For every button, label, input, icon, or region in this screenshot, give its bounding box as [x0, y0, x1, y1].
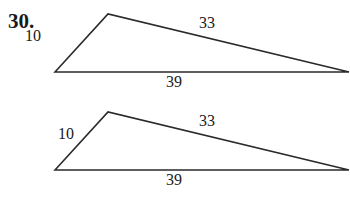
- triangle-1-left-side-label: 10: [25, 28, 41, 44]
- triangle-2-bottom-side-label: 39: [166, 172, 182, 188]
- triangle-2-left-side-label: 10: [58, 126, 74, 142]
- triangle-1-top-side-label: 33: [199, 15, 215, 31]
- triangle-2-top-side-label: 33: [199, 113, 215, 129]
- triangle-1-bottom-side-label: 39: [166, 74, 182, 90]
